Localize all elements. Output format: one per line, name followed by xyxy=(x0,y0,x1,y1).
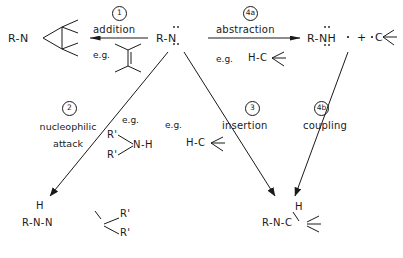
carbon-radical-label: C xyxy=(375,31,383,44)
abstraction-eg-label: e.g. xyxy=(216,54,233,64)
insertion-product-backbone: R-N-C xyxy=(262,217,292,228)
coupling-label: coupling xyxy=(303,120,347,131)
hc-fragment-abstraction xyxy=(272,52,286,66)
addition-label: addition xyxy=(93,24,135,35)
plus-sign: + xyxy=(357,31,367,44)
aziridine-adduct-label: R-N xyxy=(8,32,29,45)
step-3-badge: 3 xyxy=(245,101,260,116)
hydrazine-h-atom: H xyxy=(36,200,44,211)
insertion-product-bonds xyxy=(293,212,321,232)
amine-product-label: R-NH xyxy=(307,32,336,45)
insertion-eg-formula: H-C xyxy=(186,137,205,148)
amine-nh-label: N-H xyxy=(133,139,153,150)
nucleophilic-eg-label: e.g. xyxy=(122,115,139,125)
hydrazine-bonds xyxy=(95,211,119,234)
aminyl-radical-label: R-N xyxy=(156,32,177,45)
amine-r-prime-top: R' xyxy=(107,129,118,140)
hydrazine-backbone: R-N-N xyxy=(22,217,53,228)
alkene-structure xyxy=(115,44,141,72)
nucleophilic-attack-line2: attack xyxy=(18,138,118,149)
insertion-eg-label: e.g. xyxy=(165,120,182,130)
hc-fragment-insertion xyxy=(211,137,225,151)
step-4a-badge: 4a xyxy=(243,6,258,21)
hydrazine-r-prime-top: R' xyxy=(120,208,131,219)
step-1-badge: 1 xyxy=(112,6,127,21)
step-4b-badge: 4b xyxy=(314,101,329,116)
amine-r-prime-bottom: R' xyxy=(107,149,118,160)
amine-structure xyxy=(118,135,133,155)
abstraction-eg-formula: H-C xyxy=(248,52,267,63)
step-2-badge: 2 xyxy=(62,101,77,116)
insertion-product-h-atom: H xyxy=(295,201,303,212)
aziridine-structure xyxy=(43,20,78,56)
hydrazine-r-prime-bottom: R' xyxy=(120,227,131,238)
nucleophilic-attack-line1: nucleophilic xyxy=(18,121,118,132)
abstraction-label: abstraction xyxy=(216,24,275,35)
insertion-label: insertion xyxy=(222,120,268,131)
addition-eg-label: e.g. xyxy=(93,50,110,60)
reaction-scheme: R-N 1 addition e.g. R-N 4a abstraction e… xyxy=(0,0,403,258)
